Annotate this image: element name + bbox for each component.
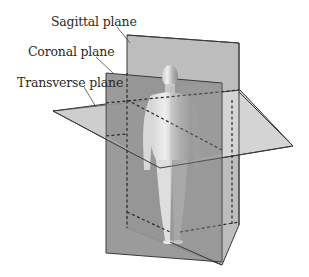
- label-transverse-plane: Transverse plane: [17, 77, 123, 90]
- anatomical-planes-diagram: [0, 0, 309, 277]
- label-sagittal-plane: Sagittal plane: [51, 16, 137, 29]
- label-coronal-plane: Coronal plane: [28, 46, 114, 59]
